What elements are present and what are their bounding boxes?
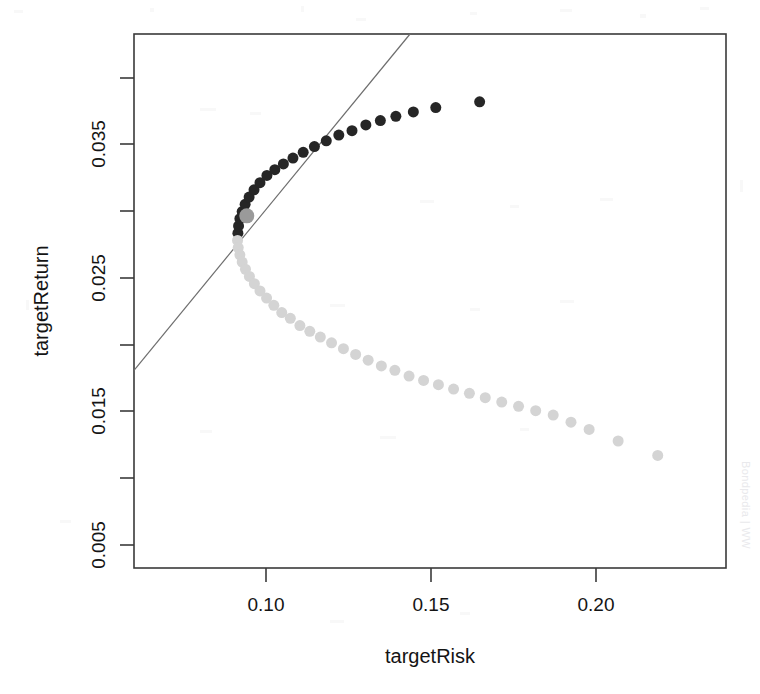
data-point — [287, 153, 298, 164]
data-point — [315, 332, 326, 343]
y-tick-label: 0.015 — [88, 387, 109, 435]
data-point — [326, 337, 337, 348]
y-axis-ticks — [120, 78, 134, 545]
plot-frame — [134, 34, 726, 568]
data-point — [530, 405, 541, 416]
x-axis-label: targetRisk — [385, 645, 476, 667]
tangency-portfolio — [239, 208, 254, 223]
data-point — [548, 410, 559, 421]
efficient-frontier-upper — [232, 96, 485, 238]
data-point — [389, 365, 400, 376]
data-point — [333, 130, 344, 141]
data-point — [513, 401, 524, 412]
data-point — [363, 355, 374, 366]
data-point — [321, 135, 332, 146]
data-point — [239, 208, 254, 223]
data-point — [584, 424, 595, 435]
x-tick-label: 0.20 — [578, 594, 615, 615]
data-point — [338, 343, 349, 354]
data-point — [565, 417, 576, 428]
x-tick-label: 0.15 — [413, 594, 450, 615]
data-point — [309, 141, 320, 152]
data-point — [376, 360, 387, 371]
data-point — [418, 375, 429, 386]
data-point — [375, 115, 386, 126]
data-point — [294, 320, 305, 331]
x-tick-label: 0.10 — [248, 594, 285, 615]
data-point — [652, 450, 663, 461]
data-point — [404, 371, 415, 382]
data-point — [360, 119, 371, 130]
data-point — [430, 102, 441, 113]
y-tick-label: 0.035 — [88, 120, 109, 168]
data-points-layer — [232, 96, 663, 461]
data-point — [448, 384, 459, 395]
data-point — [347, 125, 358, 136]
data-point — [433, 379, 444, 390]
y-tick-label: 0.025 — [88, 254, 109, 302]
x-axis-ticks — [266, 568, 596, 582]
capital-market-line — [134, 34, 410, 370]
efficient-frontier-chart: 0.035 0.025 0.015 0.005 targetReturn 0.1… — [0, 0, 760, 694]
data-point — [390, 111, 401, 122]
data-point — [278, 158, 289, 169]
data-point — [474, 96, 485, 107]
data-point — [350, 349, 361, 360]
capital-market-line-layer — [134, 34, 410, 370]
y-axis-label: targetReturn — [30, 245, 52, 356]
y-axis-tick-labels: 0.035 0.025 0.015 0.005 — [88, 120, 109, 569]
data-point — [464, 388, 475, 399]
data-point — [285, 313, 296, 324]
data-point — [480, 392, 491, 403]
y-tick-label: 0.005 — [88, 521, 109, 569]
x-axis-tick-labels: 0.10 0.15 0.20 — [248, 594, 615, 615]
data-point — [496, 397, 507, 408]
watermark-label: Bondpedia | WW — [740, 461, 752, 549]
scan-artifacts — [14, 6, 743, 623]
data-point — [408, 106, 419, 117]
data-point — [304, 326, 315, 337]
inefficient-frontier-lower — [232, 235, 663, 461]
data-point — [298, 147, 309, 158]
data-point — [613, 435, 624, 446]
